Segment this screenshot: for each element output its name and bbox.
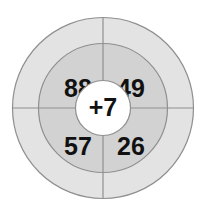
target-diagram: 88 49 57 26 +7 [0, 0, 207, 219]
target-diagram-canvas: 88 49 57 26 +7 [0, 0, 207, 219]
quadrant-value-bottom-right: 26 [117, 132, 145, 160]
center-value: +7 [89, 93, 118, 121]
quadrant-value-bottom-left: 57 [64, 132, 92, 160]
